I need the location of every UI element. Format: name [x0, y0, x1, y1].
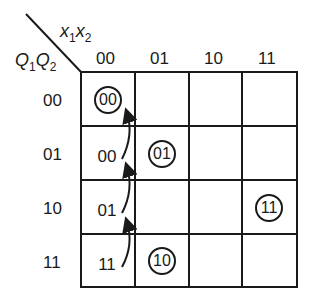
- column-header: 11: [258, 50, 276, 67]
- circled-cell-value: 01: [148, 140, 176, 168]
- column-variable-label: x1x2: [60, 23, 91, 47]
- circled-cell-value: 00: [94, 86, 122, 114]
- circled-cell-value: 11: [255, 194, 283, 222]
- circled-cell-value: 10: [148, 247, 176, 275]
- cell-value: 11: [92, 256, 122, 273]
- cell-value: 01: [92, 202, 122, 219]
- arrow-icon: [122, 222, 130, 267]
- cell-value: 00: [92, 148, 122, 165]
- column-header: 10: [204, 50, 223, 67]
- row-header: 10: [43, 200, 62, 217]
- row-header: 11: [43, 254, 61, 271]
- arrow-icon: [122, 113, 130, 159]
- arrow-icon: [122, 167, 130, 213]
- row-variable-label: Q1Q2: [15, 52, 56, 76]
- column-header: 01: [150, 50, 169, 67]
- row-header: 00: [43, 92, 62, 109]
- karnaugh-map: x1x2 Q1Q2 00 01 10 11 00 01 10 11 00 00 …: [0, 0, 310, 306]
- row-header: 01: [43, 146, 62, 163]
- column-header: 00: [96, 50, 115, 67]
